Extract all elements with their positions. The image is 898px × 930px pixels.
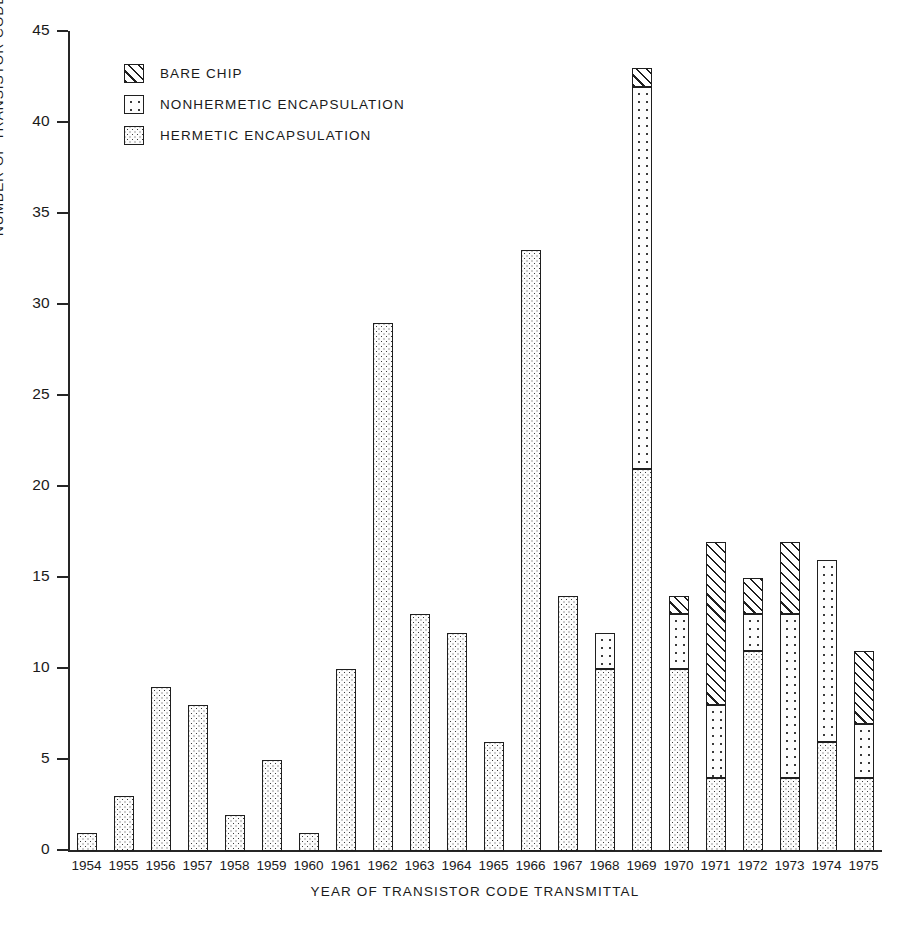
- bar-segment-hermetic-1959: [262, 760, 282, 851]
- bar-1961: [336, 32, 356, 851]
- bar-segment-hermetic-1956: [151, 687, 171, 851]
- legend-swatch-nonhermetic: [124, 95, 144, 114]
- bar-segment-hermetic-1964: [447, 633, 467, 851]
- x-tick-label-1964: 1964: [438, 858, 475, 873]
- bar-segment-hermetic-1971: [706, 778, 726, 851]
- bar-1973: [780, 32, 800, 851]
- y-tick-label: 0: [41, 840, 50, 858]
- bar-1969: [632, 32, 652, 851]
- y-tick-label: 15: [32, 567, 50, 585]
- legend-label: BARE CHIP: [160, 66, 243, 81]
- bar-1970: [669, 32, 689, 851]
- bar-segment-hermetic-1960: [299, 833, 319, 851]
- bar-segment-hermetic-1975: [854, 778, 874, 851]
- x-tick-label-1969: 1969: [623, 858, 660, 873]
- legend-item: HERMETIC ENCAPSULATION: [124, 120, 405, 151]
- bar-segment-hermetic-1970: [669, 669, 689, 851]
- bar-1975: [854, 32, 874, 851]
- y-tick-label: 45: [32, 21, 50, 39]
- bar-segment-hermetic-1958: [225, 815, 245, 851]
- bar-segment-barechip-1973: [780, 542, 800, 615]
- y-tick-45: 45: [57, 30, 68, 32]
- x-tick-label-1971: 1971: [697, 858, 734, 873]
- x-tick-label-1967: 1967: [549, 858, 586, 873]
- x-tick-label-1954: 1954: [68, 858, 105, 873]
- x-tick-label-1972: 1972: [734, 858, 771, 873]
- bar-segment-nonhermetic-1972: [743, 614, 763, 650]
- bar-segment-hermetic-1966: [521, 250, 541, 851]
- y-tick-0: 0: [57, 849, 68, 851]
- x-tick-label-1956: 1956: [142, 858, 179, 873]
- bar-1963: [410, 32, 430, 851]
- y-tick-20: 20: [57, 485, 68, 487]
- x-tick-label-1960: 1960: [290, 858, 327, 873]
- bar-1959: [262, 32, 282, 851]
- x-tick-label-1955: 1955: [105, 858, 142, 873]
- stacked-bar-chart: NUMBER OF TRANSISTOR CODES YEAR OF TRANS…: [0, 0, 898, 930]
- x-tick-label-1961: 1961: [327, 858, 364, 873]
- y-tick-label: 35: [32, 203, 50, 221]
- bar-1971: [706, 32, 726, 851]
- bar-segment-nonhermetic-1974: [817, 560, 837, 742]
- bar-segment-barechip-1972: [743, 578, 763, 614]
- bar-segment-hermetic-1973: [780, 778, 800, 851]
- x-tick-label-1962: 1962: [364, 858, 401, 873]
- x-tick-label-1974: 1974: [808, 858, 845, 873]
- bar-segment-hermetic-1967: [558, 596, 578, 851]
- bar-segment-hermetic-1969: [632, 469, 652, 851]
- bar-segment-hermetic-1955: [114, 796, 134, 851]
- y-tick-label: 20: [32, 476, 50, 494]
- x-tick-label-1968: 1968: [586, 858, 623, 873]
- x-tick-label-1970: 1970: [660, 858, 697, 873]
- y-tick-15: 15: [57, 576, 68, 578]
- y-tick-10: 10: [57, 667, 68, 669]
- bar-segment-barechip-1970: [669, 596, 689, 614]
- bar-segment-nonhermetic-1969: [632, 87, 652, 469]
- y-tick-label: 5: [41, 749, 50, 767]
- legend-swatch-hermetic: [124, 126, 144, 145]
- x-tick-label-1959: 1959: [253, 858, 290, 873]
- bar-1956: [151, 32, 171, 851]
- bar-1966: [521, 32, 541, 851]
- bar-segment-hermetic-1968: [595, 669, 615, 851]
- legend-label: HERMETIC ENCAPSULATION: [160, 128, 371, 143]
- bar-1968: [595, 32, 615, 851]
- legend-label: NONHERMETIC ENCAPSULATION: [160, 97, 405, 112]
- bar-1955: [114, 32, 134, 851]
- x-tick-label-1957: 1957: [179, 858, 216, 873]
- y-tick-25: 25: [57, 394, 68, 396]
- bar-segment-hermetic-1965: [484, 742, 504, 851]
- y-tick-30: 30: [57, 303, 68, 305]
- bar-segment-barechip-1971: [706, 542, 726, 706]
- bar-segment-hermetic-1957: [188, 705, 208, 851]
- bar-segment-nonhermetic-1970: [669, 614, 689, 669]
- y-tick-35: 35: [57, 212, 68, 214]
- x-axis-title: YEAR OF TRANSISTOR CODE TRANSMITTAL: [68, 884, 882, 899]
- bar-1962: [373, 32, 393, 851]
- bar-1964: [447, 32, 467, 851]
- y-tick-40: 40: [57, 121, 68, 123]
- bar-segment-nonhermetic-1975: [854, 724, 874, 779]
- bar-segment-nonhermetic-1968: [595, 633, 615, 669]
- bar-segment-hermetic-1962: [373, 323, 393, 851]
- bar-segment-hermetic-1974: [817, 742, 837, 851]
- y-tick-5: 5: [57, 758, 68, 760]
- y-tick-label: 30: [32, 294, 50, 312]
- x-tick-label-1963: 1963: [401, 858, 438, 873]
- bar-segment-barechip-1975: [854, 651, 874, 724]
- y-tick-label: 10: [32, 658, 50, 676]
- bar-1972: [743, 32, 763, 851]
- bar-segment-barechip-1969: [632, 68, 652, 86]
- y-tick-label: 25: [32, 385, 50, 403]
- y-tick-label: 40: [32, 112, 50, 130]
- bar-1967: [558, 32, 578, 851]
- bar-segment-hermetic-1961: [336, 669, 356, 851]
- legend-swatch-barechip: [124, 64, 144, 83]
- legend-item: BARE CHIP: [124, 58, 405, 89]
- bar-1974: [817, 32, 837, 851]
- bar-segment-nonhermetic-1971: [706, 705, 726, 778]
- bar-series-container: [68, 32, 882, 851]
- x-tick-label-1965: 1965: [475, 858, 512, 873]
- bar-1960: [299, 32, 319, 851]
- bar-1957: [188, 32, 208, 851]
